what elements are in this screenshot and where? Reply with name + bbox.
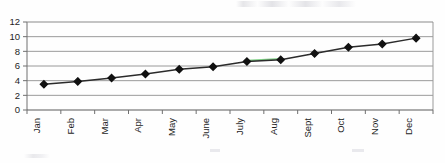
data-point-marker [74,78,81,85]
x-axis-tick-label: May [166,118,177,136]
x-axis-tick-label: Jan [31,118,42,133]
data-point-marker [243,58,250,65]
data-point-marker [142,70,149,77]
data-point-marker [277,56,284,63]
y-axis-labels: 024681012 [9,16,20,115]
x-axis-tick-label: Mar [99,118,110,134]
y-axis-tick-label: 0 [15,104,20,115]
y-axis-tick-label: 6 [15,60,20,71]
x-axis-tick-label: Oct [335,118,346,133]
x-axis-tick-label: Dec [403,118,414,135]
x-axis-tick-label: Apr [132,118,143,133]
x-axis-tick-label: June [200,118,211,139]
y-axis-tick-label: 8 [15,46,20,57]
x-axis-labels: JanFebMarAprMayJuneJulyAugSeptOctNovDec [31,118,414,139]
y-axis-tick-label: 10 [9,31,20,42]
y-axis-tick-label: 2 [15,90,20,101]
data-point-marker [345,44,352,51]
y-axis-tick-label: 4 [15,75,20,86]
data-point-marker [40,81,47,88]
chart-container: 024681012 JanFebMarAprMayJuneJulyAugSept… [0,0,445,163]
x-axis-tick-label: Feb [65,118,76,134]
data-point-marker [379,40,386,47]
x-axis-tick-label: Nov [369,118,380,135]
y-axis-ticks [23,22,27,110]
data-point-marker [209,63,216,70]
x-axis-ticks [27,110,433,114]
x-axis-tick-label: Sept [302,118,313,138]
data-line [44,38,416,84]
y-axis-tick-label: 12 [9,16,20,27]
series-polyline [44,38,416,84]
x-axis-tick-label: Aug [268,118,279,135]
data-point-marker [176,66,183,73]
line-chart-plot: 024681012 JanFebMarAprMayJuneJulyAugSept… [0,0,445,163]
data-point-marker [412,35,419,42]
x-axis-tick-label: July [234,118,245,135]
